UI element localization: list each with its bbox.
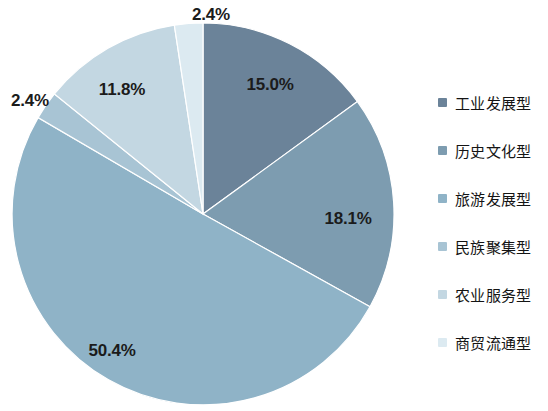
legend-item[interactable]: 民族聚集型 [438,222,548,270]
legend-swatch-icon [438,146,447,155]
pie-slice-value-label: 2.4% [192,5,230,25]
pie-slice-value-label: 50.4% [88,341,135,361]
pie-slice-value-label: 11.8% [99,80,145,100]
legend-item-label: 历史文化型 [455,140,532,161]
pie-chart-figure: 15.0%18.1%50.4%2.4%11.8%2.4% 工业发展型历史文化型旅… [0,0,548,411]
pie-plot-area: 15.0%18.1%50.4%2.4%11.8%2.4% [0,0,420,411]
legend-swatch-icon [438,98,447,107]
pie-slice-value-label: 15.0% [246,75,293,95]
legend-item-label: 民族聚集型 [455,236,532,257]
legend-item-label: 旅游发展型 [455,188,532,209]
legend-swatch-icon [438,194,447,203]
legend-item-label: 工业发展型 [455,92,532,113]
legend-item[interactable]: 历史文化型 [438,126,548,174]
pie-slice-value-label: 18.1% [324,209,371,229]
legend-item-label: 商贸流通型 [455,332,532,353]
chart-legend: 工业发展型历史文化型旅游发展型民族聚集型农业服务型商贸流通型 [438,78,548,366]
pie-slice-value-label: 2.4% [11,91,49,111]
legend-item[interactable]: 农业服务型 [438,270,548,318]
legend-swatch-icon [438,242,447,251]
legend-item-label: 农业服务型 [455,284,532,305]
legend-item[interactable]: 商贸流通型 [438,318,548,366]
pie-svg [0,0,420,411]
legend-swatch-icon [438,290,447,299]
legend-item[interactable]: 旅游发展型 [438,174,548,222]
legend-item[interactable]: 工业发展型 [438,78,548,126]
legend-swatch-icon [438,338,447,347]
